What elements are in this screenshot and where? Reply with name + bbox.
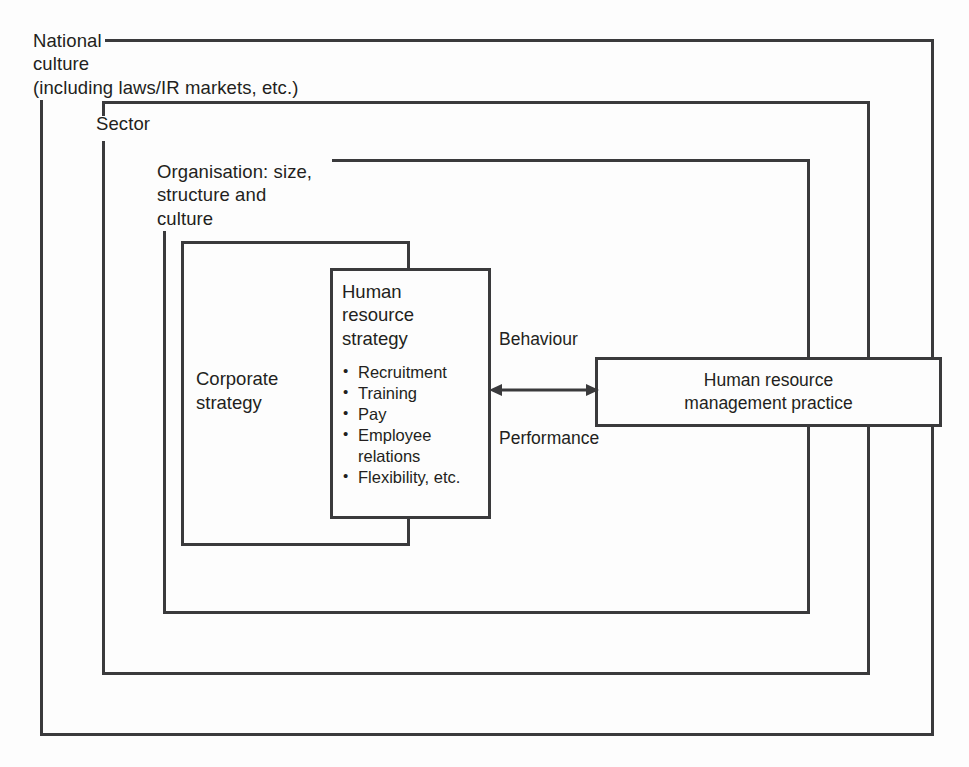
human-resource-strategy-content: Human resource strategy Recruitment Trai… [342,280,482,488]
list-item: Recruitment [342,362,482,383]
human-resource-strategy-list: Recruitment Training Pay Employee relati… [342,362,482,488]
national-culture-frame-bottom-edge [40,733,934,736]
organisation-frame-bottom-edge [163,611,810,614]
list-item: Employee relations [342,425,482,467]
performance-label: Performance [499,428,599,449]
list-item: Training [342,383,482,404]
list-item: Pay [342,404,482,425]
organisation-frame-top-edge [332,159,810,162]
hrm-practice-label: Human resource management practice [684,369,852,415]
sector-label: Sector [96,112,150,135]
hrm-practice-box: Human resource management practice [595,357,942,427]
corporate-strategy-label: Corporate strategy [196,367,278,415]
national-culture-frame-left-edge [40,100,43,736]
list-item: Flexibility, etc. [342,467,482,488]
sector-frame-bottom-edge [102,672,870,675]
national-culture-label: National culture (including laws/IR mark… [33,29,298,99]
organisation-label: Organisation: size, structure and cultur… [157,160,312,230]
diagram-canvas: National culture (including laws/IR mark… [0,0,969,767]
sector-frame-left-edge-lower [102,141,105,675]
sector-frame-top-edge [102,101,870,104]
human-resource-strategy-title: Human resource strategy [342,280,482,350]
behaviour-performance-double-arrow [489,381,599,399]
behaviour-label: Behaviour [499,329,578,350]
organisation-frame-left-edge [163,231,166,614]
